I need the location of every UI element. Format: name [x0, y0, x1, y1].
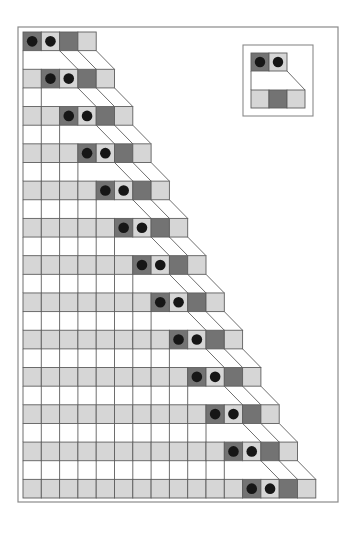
connector-row	[23, 162, 169, 181]
particle-dot-icon	[82, 148, 93, 159]
connector-row	[23, 423, 298, 442]
dark-cell	[224, 368, 242, 387]
light-cell	[206, 442, 224, 461]
light-cell	[60, 218, 78, 237]
shift-diagonal	[169, 237, 187, 256]
light-cell	[60, 144, 78, 163]
connector-row	[23, 386, 279, 405]
dark-cell	[169, 256, 187, 275]
staircase-diagram	[0, 0, 358, 535]
light-cell	[23, 107, 41, 126]
dark-cell	[243, 405, 261, 424]
dark-cell	[188, 293, 206, 312]
light-cell	[96, 218, 114, 237]
light-cell	[169, 479, 187, 498]
light-cell	[261, 405, 279, 424]
light-cell	[60, 256, 78, 275]
particle-dot-icon	[155, 297, 166, 308]
stair-row	[23, 479, 316, 498]
light-cell	[78, 479, 96, 498]
light-cell	[169, 405, 187, 424]
shift-diagonal	[151, 237, 169, 256]
light-cell	[78, 32, 96, 51]
light-cell	[78, 181, 96, 200]
dark-cell	[269, 90, 287, 108]
light-cell	[224, 330, 242, 349]
light-cell	[133, 368, 151, 387]
light-cell	[60, 442, 78, 461]
light-cell	[23, 405, 41, 424]
light-cell	[206, 293, 224, 312]
shift-diagonal	[287, 71, 305, 90]
stair-row	[23, 218, 188, 237]
light-cell	[23, 442, 41, 461]
light-cell	[78, 293, 96, 312]
shift-diagonal	[96, 88, 114, 107]
shift-diagonal	[188, 237, 206, 256]
light-cell	[78, 405, 96, 424]
shift-diagonal	[224, 386, 242, 405]
light-cell	[224, 479, 242, 498]
shift-diagonal	[115, 125, 133, 144]
particle-dot-icon	[210, 409, 221, 420]
shift-diagonal	[60, 51, 78, 70]
light-cell	[96, 368, 114, 387]
light-cell	[23, 181, 41, 200]
particle-dot-icon	[63, 73, 74, 84]
shift-diagonal	[188, 312, 206, 331]
light-cell	[96, 330, 114, 349]
light-cell	[151, 442, 169, 461]
light-cell	[251, 90, 269, 108]
light-cell	[41, 293, 59, 312]
shift-diagonal	[96, 51, 114, 70]
light-cell	[78, 330, 96, 349]
particle-dot-icon	[137, 222, 148, 233]
light-cell	[151, 479, 169, 498]
stair-row	[23, 69, 115, 88]
light-cell	[23, 218, 41, 237]
light-cell	[298, 479, 316, 498]
light-cell	[115, 256, 133, 275]
connector-row	[23, 461, 316, 480]
particle-dot-icon	[118, 222, 129, 233]
light-cell	[188, 405, 206, 424]
light-cell	[151, 181, 169, 200]
light-cell	[133, 405, 151, 424]
dark-cell	[151, 218, 169, 237]
light-cell	[115, 479, 133, 498]
light-cell	[133, 144, 151, 163]
particle-dot-icon	[118, 185, 129, 196]
stair-row	[23, 181, 169, 200]
light-cell	[41, 256, 59, 275]
dark-cell	[279, 479, 297, 498]
light-cell	[151, 368, 169, 387]
stair-row	[23, 107, 133, 126]
light-cell	[115, 442, 133, 461]
connector-row	[23, 274, 224, 293]
light-cell	[41, 442, 59, 461]
light-cell	[23, 479, 41, 498]
particle-dot-icon	[45, 36, 56, 47]
dark-cell	[78, 69, 96, 88]
light-cell	[188, 479, 206, 498]
light-cell	[23, 256, 41, 275]
dark-cell	[133, 181, 151, 200]
shift-diagonal	[151, 200, 169, 219]
stair-row	[23, 442, 298, 461]
light-cell	[243, 368, 261, 387]
particle-dot-icon	[155, 260, 166, 271]
light-cell	[78, 368, 96, 387]
connector-row	[23, 88, 133, 107]
particle-dot-icon	[265, 483, 276, 494]
connector-row	[23, 349, 261, 368]
dark-cell	[96, 107, 114, 126]
light-cell	[41, 479, 59, 498]
particle-dot-icon	[100, 148, 111, 159]
light-cell	[169, 368, 187, 387]
particle-dot-icon	[210, 372, 221, 383]
shift-diagonal	[206, 312, 224, 331]
shift-diagonal	[243, 386, 261, 405]
connector-row	[23, 200, 188, 219]
light-cell	[23, 69, 41, 88]
light-cell	[169, 218, 187, 237]
